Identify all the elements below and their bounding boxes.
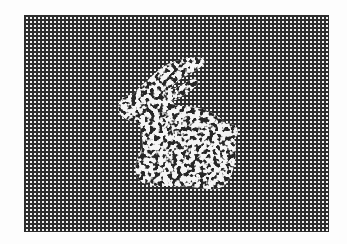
bunny-silhouette (0, 0, 347, 244)
image-canvas (0, 0, 347, 244)
bunny-noise-texture (110, 50, 250, 200)
